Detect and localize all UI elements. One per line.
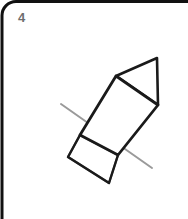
drawing-card: 4	[0, 0, 188, 219]
rocket-figure	[0, 0, 188, 219]
